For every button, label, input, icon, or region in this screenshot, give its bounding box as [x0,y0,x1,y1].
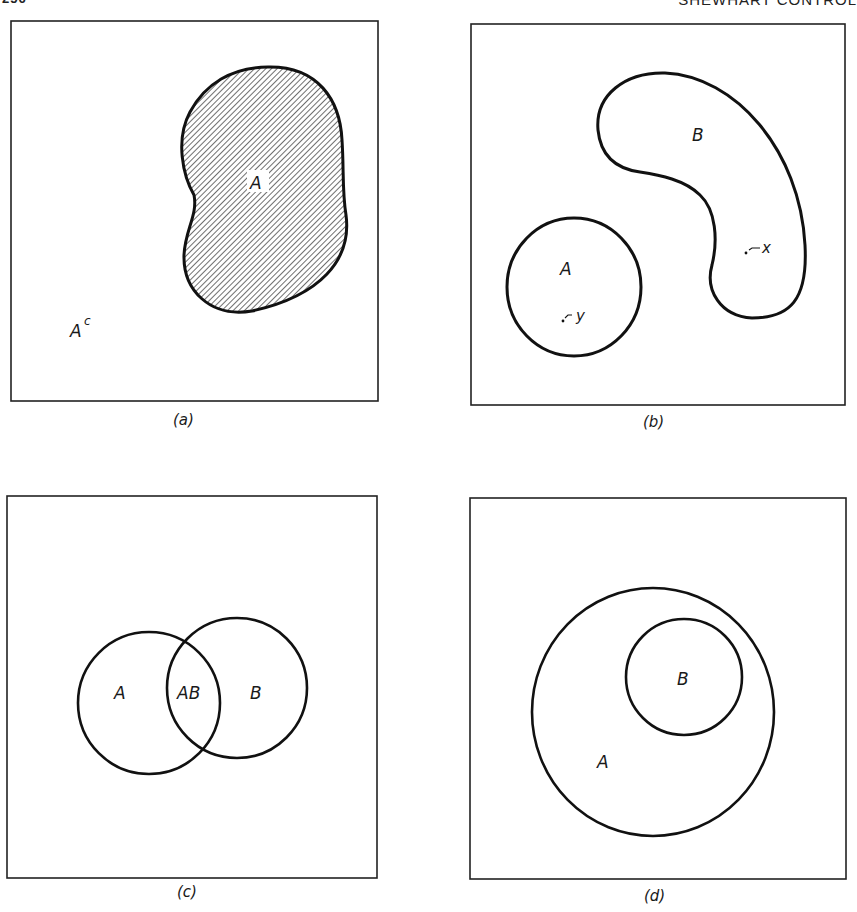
label-set-b: B [692,125,704,145]
caption-b: (b) [643,413,664,431]
point-x-dot [745,252,748,255]
point-y-dot [562,320,565,323]
label-set-a: A [559,259,572,279]
panel-c: A AB B (c) [7,496,377,901]
label-point-y: y [575,307,586,325]
caption-d: (d) [644,887,665,905]
panel-d: B A (d) [470,498,846,905]
label-set-b: B [677,669,689,689]
label-intersection-ab: AB [176,683,200,703]
set-a-circle [507,218,641,356]
set-a-circle [78,632,220,774]
universe-box-d [470,498,846,879]
label-set-a: A [249,173,262,193]
set-a-outer-circle [532,588,774,836]
label-point-x: x [761,239,771,257]
label-set-a: A [596,752,609,772]
point-y-leader [565,315,572,318]
label-complement: A [69,321,82,341]
set-b-kidney [598,73,806,318]
label-complement-superscript: c [84,314,91,328]
universe-box-b [471,24,845,405]
panel-b: B A x y (b) [471,24,845,431]
label-set-b: B [250,683,262,703]
point-x-leader [749,248,760,250]
caption-c: (c) [177,883,197,901]
label-set-a: A [113,683,126,703]
caption-a: (a) [173,411,194,429]
panel-a: A A c (a) [11,21,378,429]
